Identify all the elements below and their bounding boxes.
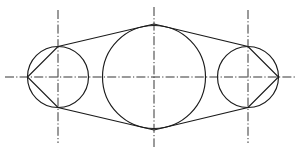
technical-drawing-canvas <box>0 0 301 153</box>
drawing-svg <box>0 0 301 153</box>
